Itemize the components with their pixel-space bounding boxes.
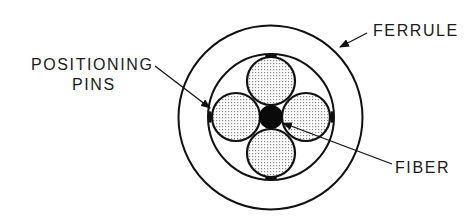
positioning-pins-label-line2: PINS [72, 77, 116, 93]
positioning-pin-bottom [247, 129, 295, 177]
fiber-core [259, 105, 283, 129]
positioning-pin-right [282, 93, 330, 141]
fiber-leader-arrow [283, 123, 392, 164]
positioning-pins-leader-arrow [155, 66, 210, 108]
contact-mark-left [208, 111, 212, 123]
fiber-label: FIBER [395, 160, 450, 176]
contact-mark-right [330, 111, 334, 123]
positioning-pin-top [247, 57, 295, 105]
positioning-pins-label-line1: POSITIONING [31, 57, 154, 73]
contact-mark-bottom [265, 176, 277, 180]
ferrule-label: FERRULE [373, 23, 459, 39]
positioning-pin-left [212, 93, 260, 141]
contact-mark-top [265, 54, 277, 58]
ferrule-leader-arrow [340, 33, 367, 47]
